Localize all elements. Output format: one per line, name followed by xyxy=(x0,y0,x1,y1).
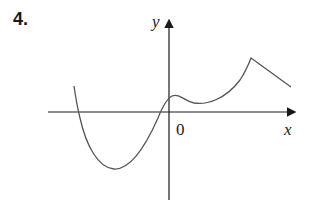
origin-label: 0 xyxy=(176,120,185,139)
curve xyxy=(74,58,291,169)
y-axis-label: y xyxy=(150,12,160,31)
function-graph: y 0 x xyxy=(0,0,316,204)
x-axis-label: x xyxy=(283,120,292,139)
